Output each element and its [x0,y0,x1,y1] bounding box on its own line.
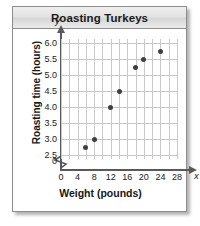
gridline-vertical [78,39,79,159]
data-point [158,49,163,54]
gridline-vertical [136,39,137,159]
y-axis-variable-label: y [55,15,60,26]
x-axis-line [60,169,191,171]
chart-title-banner: Roasting Turkeys [13,7,186,29]
y-axis-origin-label: 0 [52,156,57,166]
gridline-vertical [61,39,62,159]
x-tick-label: 12 [106,172,116,182]
y-axis-arrow-icon [57,25,65,33]
y-tick-label: 4.0 [44,102,57,112]
gridline-vertical [127,39,128,159]
gridline-horizontal [61,139,177,140]
x-axis-variable-label: x [194,170,199,181]
data-point [117,89,122,94]
y-tick-label: 5.0 [44,70,57,80]
x-tick-label: 0 [58,172,63,182]
y-axis-title: Roasting time (hours) [31,34,42,152]
gridline-vertical [102,39,103,159]
y-tick-label: 5.5 [44,54,57,64]
gridline-horizontal [61,59,177,60]
x-axis-title: Weight (pounds) [13,187,188,199]
data-point [108,105,113,110]
figure-root: Roasting Turkeys Roasting time (hours) W… [0,0,200,226]
gridline-vertical [160,39,161,159]
gridline-horizontal [61,107,177,108]
gridline-vertical [152,39,153,159]
data-point [83,145,88,150]
x-tick-label: 4 [75,172,80,182]
gridline-horizontal [61,123,177,124]
x-tick-label: 24 [155,172,165,182]
y-tick-label: 6.0 [44,38,57,48]
chart-panel: Roasting Turkeys Roasting time (hours) W… [12,6,187,212]
x-tick-label: 16 [122,172,132,182]
gridline-vertical [177,39,178,159]
data-point [133,65,138,70]
plot-area: y x 2.53.03.54.04.55.05.56.0004812162024… [61,39,177,159]
gridline-horizontal [61,75,177,76]
gridline-vertical [69,39,70,159]
gridline-horizontal [61,155,177,156]
gridline-vertical [119,39,120,159]
chart-body: Roasting time (hours) Weight (pounds) y … [13,29,188,212]
gridline-vertical [111,39,112,159]
data-point [141,57,146,62]
y-tick-label: 3.0 [44,134,57,144]
x-tick-label: 20 [139,172,149,182]
y-tick-label: 4.5 [44,86,57,96]
data-point [92,137,97,142]
gridline-horizontal [61,43,177,44]
gridline-vertical [169,39,170,159]
chart-title: Roasting Turkeys [51,12,148,24]
y-tick-label: 3.5 [44,118,57,128]
x-tick-label: 8 [92,172,97,182]
x-tick-label: 28 [172,172,182,182]
gridline-vertical [86,39,87,159]
